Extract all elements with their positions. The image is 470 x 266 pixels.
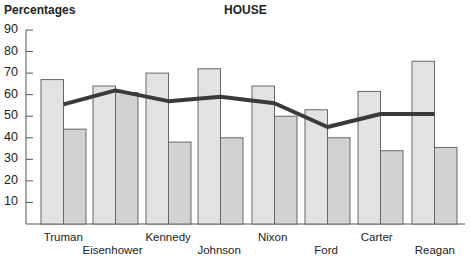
- bar-light: [252, 86, 275, 224]
- bar-dark: [169, 142, 192, 224]
- bar-light: [41, 80, 64, 224]
- bar-dark: [381, 151, 404, 224]
- bar-light: [412, 61, 435, 224]
- bar-dark: [328, 138, 351, 224]
- bar-dark: [221, 138, 244, 224]
- bar-dark: [116, 93, 139, 224]
- bar-light: [358, 91, 381, 224]
- plot-area: [0, 0, 470, 266]
- bar-light: [93, 86, 116, 224]
- bar-dark: [275, 116, 298, 224]
- bar-dark: [64, 129, 87, 224]
- bar-dark: [435, 147, 458, 224]
- bar-light: [198, 69, 221, 224]
